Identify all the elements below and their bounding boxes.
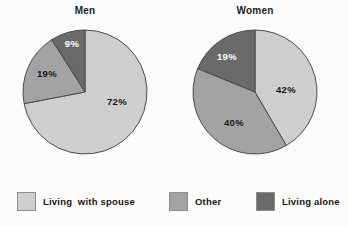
pie-svg-women: 42%40%19% xyxy=(190,27,320,157)
pie-slice-label-men-2: 9% xyxy=(65,38,80,49)
legend-label-other: Other xyxy=(195,196,221,207)
pie-slice-label-women-2: 19% xyxy=(217,51,237,62)
pie-slice-label-men-0: 72% xyxy=(107,96,127,107)
legend-swatch-other xyxy=(169,192,188,211)
legend-swatch-living-with-spouse xyxy=(17,192,36,211)
legend-label-living-alone: Living alone xyxy=(282,196,340,207)
pie-chart-women: 42%40%19% xyxy=(190,27,320,157)
chart-title-women: Women xyxy=(195,5,315,16)
legend-item-living-alone[interactable]: Living alone xyxy=(256,190,340,212)
pie-slice-label-men-1: 19% xyxy=(37,68,57,79)
pie-slice-label-women-1: 40% xyxy=(224,117,244,128)
legend-label-living-with-spouse: Living with spouse xyxy=(43,196,135,207)
pie-svg-men: 72%19%9% xyxy=(20,27,150,157)
pie-slice-label-women-0: 42% xyxy=(276,84,296,95)
legend: Living with spouse Other Living alone xyxy=(0,186,348,220)
chart-title-men: Men xyxy=(25,5,145,16)
legend-item-living-with-spouse[interactable]: Living with spouse xyxy=(17,190,135,212)
pie-chart-figure: Men 72%19%9% Women 42%40%19% Living with… xyxy=(0,0,348,226)
legend-item-other[interactable]: Other xyxy=(169,190,221,212)
legend-swatch-living-alone xyxy=(256,192,275,211)
pie-chart-men: 72%19%9% xyxy=(20,27,150,157)
